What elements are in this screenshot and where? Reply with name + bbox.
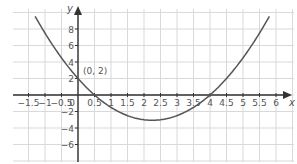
parabola-chart: −1.5−1−0.500.511.522.533.544.555.56−6−4−…: [0, 0, 297, 164]
grid: [13, 9, 294, 162]
point-annotation: (0, 2): [83, 66, 107, 76]
x-tick-label: 0.5: [87, 98, 101, 108]
y-tick-label: 6: [68, 41, 74, 51]
y-tick-label: 8: [68, 25, 74, 35]
y-tick-label: −4: [61, 124, 75, 134]
x-tick-label: 2.5: [153, 98, 167, 108]
y-axis-arrow-icon: [74, 6, 82, 15]
x-tick-label: 5.5: [252, 98, 266, 108]
x-tick-label: 4: [207, 98, 213, 108]
y-tick-label: −6: [61, 140, 75, 150]
x-tick-label: −1.5: [18, 98, 40, 108]
x-tick-label: 1.5: [120, 98, 134, 108]
x-tick-label: 6: [273, 98, 279, 108]
y-tick-label: 2: [68, 74, 74, 84]
x-tick-label: 2: [141, 98, 147, 108]
x-tick-label: 3: [174, 98, 180, 108]
x-axis-label: x: [288, 97, 295, 108]
x-tick-label: 1: [108, 98, 114, 108]
y-tick-label: −2: [61, 107, 74, 117]
x-tick-label: 5: [240, 98, 246, 108]
x-tick-label: 4.5: [219, 98, 233, 108]
x-tick-label: 3.5: [186, 98, 200, 108]
y-tick-label: 4: [68, 58, 74, 68]
y-axis-label: y: [66, 3, 74, 14]
